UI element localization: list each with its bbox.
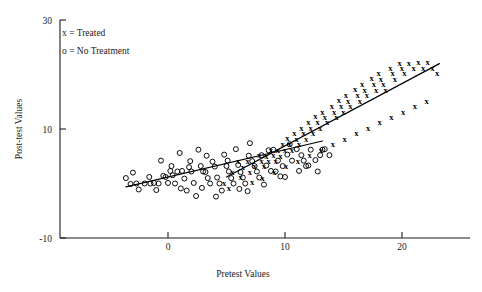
data-point-no-treatment [243, 181, 248, 186]
data-point-treated: x [290, 145, 295, 155]
data-point-no-treatment [191, 180, 196, 185]
y-tick-label: 30 [43, 16, 53, 26]
plot-canvas: -101030 01020 xxxxxxxxxxxxxxxxxxxxxxxxxx… [0, 0, 482, 292]
data-point-treated: x [393, 74, 398, 84]
data-point-no-treatment [188, 159, 193, 164]
data-point-no-treatment [327, 153, 332, 158]
data-point-no-treatment [147, 174, 152, 179]
data-point-treated: x [272, 167, 277, 177]
data-point-treated: x [297, 139, 302, 149]
data-point-no-treatment [205, 176, 210, 181]
data-point-treated: x [402, 68, 407, 78]
data-point-no-treatment [290, 158, 295, 163]
data-point-no-treatment [158, 158, 163, 163]
data-point-treated: x [365, 90, 370, 100]
data-point-no-treatment [136, 187, 141, 192]
data-point-treated: x [261, 173, 266, 183]
data-point-no-treatment [156, 181, 161, 186]
data-point-no-treatment [175, 169, 180, 174]
data-point-no-treatment [169, 164, 174, 169]
data-point-treated: x [435, 68, 440, 78]
data-point-no-treatment [297, 168, 302, 173]
data-point-treated: x [250, 177, 255, 187]
data-point-no-treatment [247, 141, 252, 146]
data-point-no-treatment [178, 186, 183, 191]
data-point-no-treatment [184, 188, 189, 193]
legend-entry-no-treatment: o = No Treatment [62, 46, 130, 56]
data-point-no-treatment [208, 181, 213, 186]
data-point-no-treatment [213, 194, 218, 199]
data-point-no-treatment [237, 186, 242, 191]
data-point-no-treatment [315, 169, 320, 174]
data-point-no-treatment [245, 189, 250, 194]
data-point-no-treatment [198, 164, 203, 169]
x-tick-label: 0 [166, 242, 171, 252]
data-point-no-treatment [301, 158, 306, 163]
y-axis-title: Post-test Values [14, 99, 24, 160]
regression-line-treated [227, 64, 440, 177]
data-point-no-treatment [222, 152, 227, 157]
data-point-no-treatment [199, 185, 204, 190]
legend-group: x = Treated o = No Treatment [62, 28, 130, 56]
data-point-treated: x [366, 123, 371, 133]
data-point-treated: x [319, 145, 324, 155]
data-point-no-treatment [278, 174, 283, 179]
data-points-group: xxxxxxxxxxxxxxxxxxxxxxxxxxxxxxxxxxxxxxxx… [123, 57, 440, 199]
x-tick-label: 10 [280, 242, 290, 252]
data-point-no-treatment [210, 159, 215, 164]
data-point-no-treatment [215, 175, 220, 180]
x-tick-label: 20 [397, 242, 407, 252]
data-point-no-treatment [166, 180, 171, 185]
data-point-no-treatment [233, 147, 238, 152]
data-point-treated: x [354, 128, 359, 138]
data-point-no-treatment [154, 188, 159, 193]
y-tick-label: 10 [43, 125, 53, 135]
x-axis-title: Pretest Values [216, 269, 270, 279]
data-point-no-treatment [177, 150, 182, 155]
data-point-treated: x [389, 112, 394, 122]
data-point-no-treatment [130, 170, 135, 175]
data-point-treated: x [413, 101, 418, 111]
scatter-plot-figure: -101030 01020 xxxxxxxxxxxxxxxxxxxxxxxxxx… [0, 0, 482, 292]
data-point-no-treatment [173, 181, 178, 186]
data-point-treated: x [296, 156, 301, 166]
data-point-no-treatment [123, 176, 128, 181]
data-point-no-treatment [231, 181, 236, 186]
data-point-treated: x [331, 139, 336, 149]
data-point-no-treatment [313, 158, 318, 163]
data-point-no-treatment [261, 182, 266, 187]
data-point-no-treatment [182, 176, 187, 181]
data-point-no-treatment [196, 147, 201, 152]
data-point-treated: x [424, 96, 429, 106]
data-point-no-treatment [204, 153, 209, 158]
data-point-treated: x [374, 85, 379, 95]
data-point-treated: x [238, 172, 243, 182]
data-point-no-treatment [194, 194, 199, 199]
y-tick-label: -10 [39, 234, 52, 244]
data-point-treated: x [307, 150, 312, 160]
data-point-treated: x [227, 183, 232, 193]
legend-entry-treated: x = Treated [62, 28, 106, 38]
x-tick-group: 01020 [166, 232, 407, 252]
data-point-treated: x [401, 107, 406, 117]
data-point-treated: x [343, 134, 348, 144]
data-point-no-treatment [219, 188, 224, 193]
data-point-treated: x [284, 161, 289, 171]
data-point-no-treatment [283, 174, 288, 179]
data-point-treated: x [378, 117, 383, 127]
